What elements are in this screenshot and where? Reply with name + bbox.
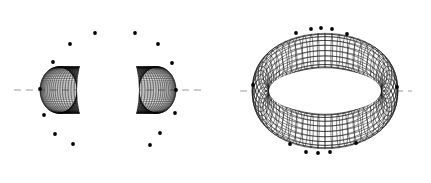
marker-dot <box>170 61 174 65</box>
torus-inner-hole <box>269 69 381 113</box>
marker-dot <box>395 85 399 89</box>
figure-canvas <box>0 0 431 183</box>
marker-dot <box>71 142 75 146</box>
marker-dot <box>148 143 152 147</box>
marker-dot <box>93 31 97 35</box>
torus-panel-right <box>215 0 431 183</box>
marker-dot <box>158 131 162 135</box>
marker-dot <box>304 150 308 154</box>
marker-dot <box>354 141 358 145</box>
marker-dot <box>319 26 323 30</box>
marker-dot <box>345 32 349 36</box>
torus-panel-left <box>0 0 215 183</box>
right-torus-rendering <box>215 0 431 183</box>
marker-dot <box>251 83 255 87</box>
torus-inner-hole <box>77 34 139 146</box>
marker-dot <box>42 113 46 117</box>
marker-dot <box>328 150 332 154</box>
marker-dot <box>156 42 160 46</box>
marker-dot <box>309 27 313 31</box>
marker-dot <box>173 111 177 115</box>
marker-dot <box>174 88 178 92</box>
marker-dot <box>68 42 72 46</box>
marker-dot <box>330 27 334 31</box>
marker-dot <box>53 132 57 136</box>
marker-dot <box>294 31 298 35</box>
marker-dot <box>316 151 320 155</box>
marker-dot <box>133 31 137 35</box>
marker-dot <box>38 87 42 91</box>
left-torus-rendering <box>0 0 215 183</box>
marker-dot <box>51 60 55 64</box>
marker-dot <box>288 142 292 146</box>
